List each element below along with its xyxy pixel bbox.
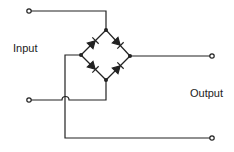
node-left bbox=[79, 53, 83, 57]
node-right bbox=[128, 54, 132, 58]
wire-input-top bbox=[31, 11, 106, 30]
node-bottom bbox=[104, 78, 108, 82]
node-top bbox=[104, 28, 108, 32]
output-label: Output bbox=[190, 87, 223, 99]
terminal-output-top bbox=[210, 54, 214, 58]
wire-input-bottom bbox=[31, 80, 106, 100]
terminal-input-bottom bbox=[27, 98, 31, 102]
bridge-rectifier-diagram bbox=[0, 0, 234, 152]
terminal-input-top bbox=[27, 9, 31, 13]
terminal-output-bottom bbox=[210, 136, 214, 140]
input-label: Input bbox=[13, 42, 37, 54]
